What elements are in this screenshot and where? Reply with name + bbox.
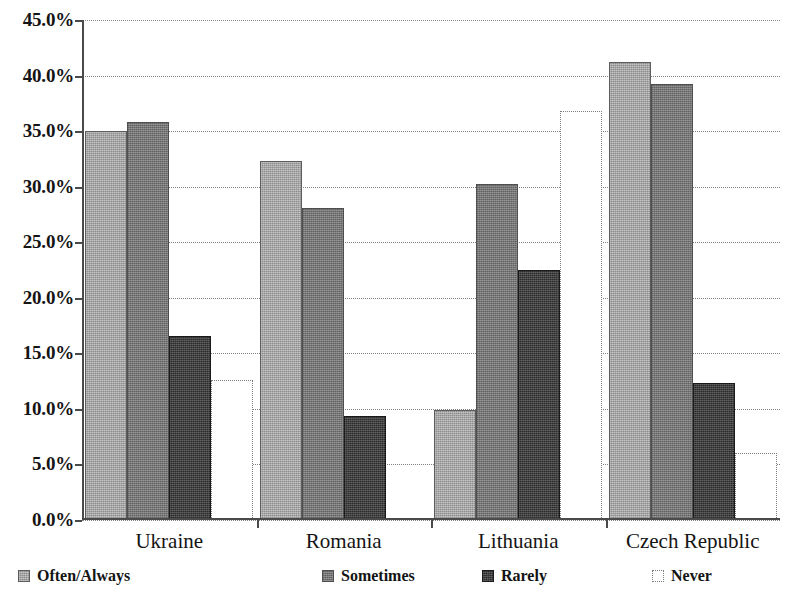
y-axis-tick-mark [75, 409, 82, 411]
legend-item-rarely[interactable]: Rarely [482, 568, 547, 584]
x-axis-tick-mark [431, 520, 433, 528]
y-axis-tick-label: 15.0% [0, 343, 74, 362]
x-axis-label-ukraine: Ukraine [82, 530, 257, 553]
plot-frame [82, 20, 780, 520]
y-axis-tick-mark [75, 76, 82, 78]
x-axis-label-romania: Romania [257, 530, 432, 553]
plot-area [82, 20, 780, 520]
y-axis-tick-label: 35.0% [0, 121, 74, 140]
legend-label: Often/Always [37, 568, 130, 584]
swatch-often-always-icon [18, 570, 30, 582]
swatch-sometimes-icon [322, 570, 334, 582]
y-axis-tick-mark [75, 464, 82, 466]
x-axis-tick-mark [257, 520, 259, 528]
chart-legend: Often/AlwaysSometimesRarelyNever [0, 568, 785, 598]
legend-label: Rarely [501, 568, 547, 584]
y-axis-tick-mark [75, 242, 82, 244]
y-axis-tick-label: 30.0% [0, 177, 74, 196]
y-axis-tick-label: 45.0% [0, 10, 74, 29]
y-axis-tick-label: 20.0% [0, 288, 74, 307]
y-axis-tick-mark [75, 520, 82, 522]
x-axis-tick-mark [606, 520, 608, 528]
legend-item-often-always[interactable]: Often/Always [18, 568, 130, 584]
y-axis-tick-label: 40.0% [0, 66, 74, 85]
y-axis-tick-mark [75, 353, 82, 355]
x-axis-label-czech-republic: Czech Republic [606, 530, 781, 553]
y-axis-tick-mark [75, 298, 82, 300]
legend-label: Never [671, 568, 712, 584]
swatch-rarely-icon [482, 570, 494, 582]
legend-label: Sometimes [341, 568, 415, 584]
y-axis-tick-mark [75, 131, 82, 133]
swatch-never-icon [652, 570, 664, 582]
legend-item-sometimes[interactable]: Sometimes [322, 568, 415, 584]
x-axis-label-lithuania: Lithuania [431, 530, 606, 553]
y-axis-tick-label: 0.0% [0, 510, 74, 529]
y-axis-tick-mark [75, 20, 82, 22]
bar-chart: 0.0%5.0%10.0%15.0%20.0%25.0%30.0%35.0%40… [0, 0, 785, 598]
y-axis-tick-label: 10.0% [0, 399, 74, 418]
y-axis-tick-label: 25.0% [0, 232, 74, 251]
y-axis-tick-mark [75, 187, 82, 189]
legend-item-never[interactable]: Never [652, 568, 712, 584]
y-axis-tick-label: 5.0% [0, 454, 74, 473]
